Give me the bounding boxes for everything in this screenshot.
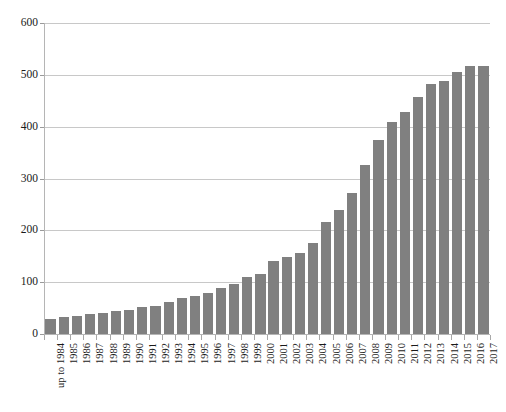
bar	[72, 316, 82, 334]
x-axis-tick-label: 1985	[68, 343, 79, 364]
bar	[295, 253, 305, 334]
x-axis-tick-mark	[411, 335, 412, 340]
x-axis-labels: up to 1984198519861987198819891990199119…	[44, 343, 490, 412]
x-axis-tick-label: 2001	[278, 343, 289, 364]
x-axis-tick-mark	[359, 335, 360, 340]
bar	[334, 210, 344, 334]
x-axis-tick-mark	[162, 335, 163, 340]
x-axis-tick-mark	[477, 335, 478, 340]
x-axis-tick-mark	[110, 335, 111, 340]
x-axis-tick-mark	[123, 335, 124, 340]
y-axis-tick-label: 200	[21, 225, 38, 237]
x-axis-tick-label: 2008	[370, 343, 381, 364]
x-axis-tick-label: 1989	[121, 343, 132, 364]
y-axis-tick-mark	[40, 179, 44, 180]
x-axis-tick-mark	[188, 335, 189, 340]
x-axis-tick-mark	[267, 335, 268, 340]
x-axis-tick-mark	[385, 335, 386, 340]
bar	[360, 165, 370, 334]
bar	[347, 193, 357, 334]
x-axis-tick-marks	[44, 335, 490, 341]
bar	[282, 257, 292, 334]
bar-series	[44, 23, 490, 334]
x-axis-tick-label: 2016	[475, 343, 486, 364]
x-axis-tick-label: 1995	[199, 343, 210, 364]
bar	[268, 261, 278, 334]
x-axis-tick-mark	[254, 335, 255, 340]
x-axis-tick-mark	[398, 335, 399, 340]
x-axis-tick-label: 1997	[226, 343, 237, 364]
x-axis-tick-label: 2005	[331, 343, 342, 364]
x-axis-tick-mark	[215, 335, 216, 340]
y-axis-tick-mark	[40, 75, 44, 76]
x-axis-tick-label: 2012	[422, 343, 433, 364]
bar	[150, 306, 160, 335]
bar	[177, 298, 187, 334]
bar	[373, 140, 383, 334]
x-axis-tick-label: 2011	[409, 343, 420, 364]
x-axis-tick-mark	[333, 335, 334, 340]
x-axis-tick-mark	[319, 335, 320, 340]
x-axis-tick-label: 1998	[239, 343, 250, 364]
x-axis-tick-label: 2004	[317, 343, 328, 364]
bar	[59, 317, 69, 334]
x-axis-tick-mark	[438, 335, 439, 340]
x-axis-tick-label: 1994	[186, 343, 197, 364]
x-axis-tick-mark	[346, 335, 347, 340]
x-axis-tick-label: 1990	[134, 343, 145, 364]
bar	[255, 274, 265, 334]
y-axis-tick-mark	[40, 127, 44, 128]
x-axis-tick-mark	[44, 335, 45, 340]
x-axis-tick-mark	[83, 335, 84, 340]
x-axis-tick-label: 2009	[383, 343, 394, 364]
y-axis-tick-mark	[40, 334, 44, 335]
y-axis-tick-label: 600	[21, 17, 38, 29]
bar	[321, 222, 331, 334]
bar	[216, 288, 226, 334]
x-axis-tick-mark	[136, 335, 137, 340]
x-axis-tick-label: up to 1984	[55, 343, 66, 388]
x-axis-tick-mark	[228, 335, 229, 340]
x-axis-tick-mark	[70, 335, 71, 340]
bar	[98, 313, 108, 334]
x-axis-tick-label: 1999	[252, 343, 263, 364]
x-axis-tick-label: 1987	[94, 343, 105, 364]
y-axis-tick-mark	[40, 282, 44, 283]
x-axis-tick-label: 2015	[462, 343, 473, 364]
x-axis-tick-mark	[280, 335, 281, 340]
y-axis-labels: 0100200300400500600	[0, 0, 38, 412]
y-axis-tick-label: 500	[21, 69, 38, 81]
x-axis-tick-mark	[464, 335, 465, 340]
x-axis-tick-label: 2017	[488, 343, 499, 364]
bar	[465, 66, 475, 334]
bar	[124, 310, 134, 334]
x-axis-tick-label: 2007	[357, 343, 368, 364]
x-axis-tick-mark	[201, 335, 202, 340]
x-axis-tick-mark	[57, 335, 58, 340]
x-axis-tick-mark	[96, 335, 97, 340]
bar	[439, 81, 449, 334]
x-axis-tick-label: 1992	[160, 343, 171, 364]
bar	[85, 314, 95, 334]
bar-chart: 0100200300400500600 up to 19841985198619…	[0, 0, 506, 412]
bar	[400, 112, 410, 334]
x-axis-tick-label: 1988	[108, 343, 119, 364]
x-axis-tick-label: 2014	[449, 343, 460, 364]
x-axis-tick-mark	[306, 335, 307, 340]
bar	[478, 66, 488, 334]
x-axis-tick-label: 2003	[304, 343, 315, 364]
bar	[190, 296, 200, 334]
x-axis-tick-label: 1996	[212, 343, 223, 364]
x-axis-tick-label: 2010	[396, 343, 407, 364]
x-axis-tick-label: 2002	[291, 343, 302, 364]
y-axis-tick-label: 0	[32, 328, 38, 340]
x-axis-tick-mark	[372, 335, 373, 340]
bar	[229, 284, 239, 334]
bar	[45, 319, 55, 334]
y-axis-tick-mark	[40, 23, 44, 24]
x-axis-tick-mark	[293, 335, 294, 340]
bar	[452, 72, 462, 334]
x-axis-tick-label: 2000	[265, 343, 276, 364]
x-axis-tick-label: 1986	[81, 343, 92, 364]
x-axis-tick-label: 1993	[173, 343, 184, 364]
